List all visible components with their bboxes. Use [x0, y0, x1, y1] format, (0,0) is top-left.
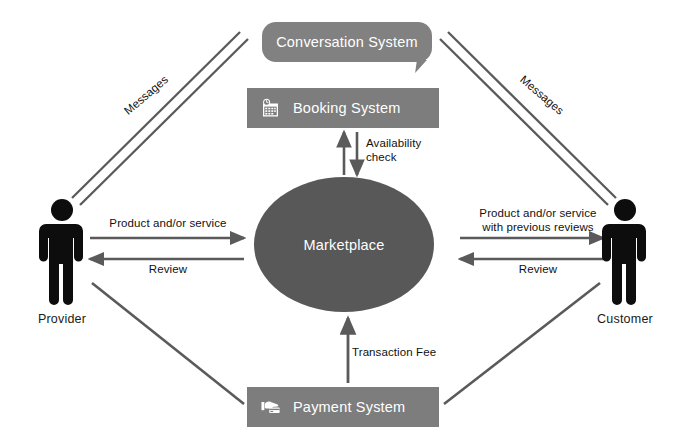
edge-label-review-left: Review: [88, 262, 248, 276]
edge-label-transaction-fee: Transaction Fee: [352, 345, 472, 359]
calendar-clock-icon: [261, 98, 281, 118]
provider-label: Provider: [20, 312, 104, 326]
person-icon: [20, 198, 104, 306]
node-payment-system[interactable]: Payment System: [247, 387, 439, 427]
edge-customer-conversation-a: [448, 32, 616, 198]
edge-label-availability-check: Availability check: [366, 136, 456, 164]
customer-label: Customer: [583, 312, 667, 326]
edge-label-review-right: Review: [458, 262, 618, 276]
edge-provider-payment: [92, 283, 244, 404]
edge-label-product-service-left: Product and/or service: [88, 216, 248, 230]
marketplace-label: Marketplace: [303, 237, 384, 253]
conversation-system-label: Conversation System: [276, 34, 418, 50]
node-conversation-system[interactable]: Conversation System: [262, 22, 432, 62]
edge-label-product-service-right: Product and/or service with previous rev…: [458, 206, 618, 234]
hand-credit-card-icon: [261, 397, 281, 417]
edge-provider-conversation-a: [72, 32, 240, 198]
edge-payment-customer: [444, 283, 600, 404]
diagram-canvas: Conversation System: [0, 0, 687, 448]
speech-bubble-tail: [415, 60, 427, 73]
node-marketplace[interactable]: Marketplace: [254, 177, 434, 312]
payment-system-label: Payment System: [293, 399, 405, 415]
booking-system-label: Booking System: [293, 100, 401, 116]
node-booking-system[interactable]: Booking System: [247, 88, 439, 128]
